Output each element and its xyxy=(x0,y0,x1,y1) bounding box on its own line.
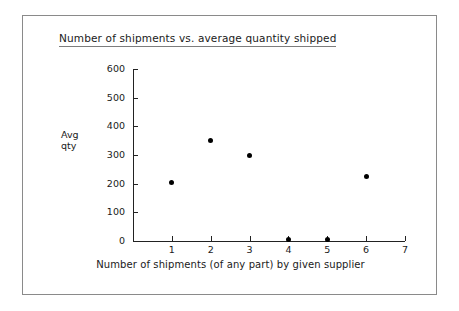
y-axis-label-line-2: qty xyxy=(61,140,121,151)
x-axis-tick xyxy=(250,236,251,241)
data-point xyxy=(286,237,291,242)
y-axis-tick-label: 500 xyxy=(85,92,125,103)
data-point xyxy=(325,237,330,242)
plot-area: 0100200300400500600 1234567 Avg qty Numb… xyxy=(23,16,438,296)
x-axis-label: Number of shipments (of any part) by giv… xyxy=(23,259,438,270)
y-axis-tick-label: 0 xyxy=(85,235,125,246)
y-axis-tick xyxy=(133,212,138,213)
x-axis-tick xyxy=(211,236,212,241)
data-point xyxy=(169,180,174,185)
y-axis-tick xyxy=(133,69,138,70)
x-axis-tick-label: 2 xyxy=(201,244,221,255)
x-axis-tick-label: 5 xyxy=(317,244,337,255)
data-point xyxy=(208,138,213,143)
x-axis-tick xyxy=(366,236,367,241)
y-axis-tick-label: 200 xyxy=(85,178,125,189)
data-point xyxy=(364,174,369,179)
y-axis-tick-label: 600 xyxy=(85,63,125,74)
x-axis-tick-label: 4 xyxy=(278,244,298,255)
y-axis-tick xyxy=(133,98,138,99)
y-axis-tick xyxy=(133,241,138,242)
y-axis-tick xyxy=(133,155,138,156)
figure-border: Number of shipments vs. average quantity… xyxy=(22,15,437,295)
x-axis-tick xyxy=(405,236,406,241)
x-axis-line xyxy=(133,241,405,242)
y-axis-tick-label: 100 xyxy=(85,206,125,217)
x-axis-tick-label: 3 xyxy=(240,244,260,255)
x-axis-tick-label: 7 xyxy=(395,244,415,255)
y-axis-label: Avg qty xyxy=(61,129,121,151)
y-axis-tick xyxy=(133,126,138,127)
y-axis-label-line-1: Avg xyxy=(61,129,121,140)
data-point xyxy=(247,153,252,158)
x-axis-tick-label: 1 xyxy=(162,244,182,255)
x-axis-tick xyxy=(172,236,173,241)
y-axis-tick xyxy=(133,184,138,185)
x-axis-tick-label: 6 xyxy=(356,244,376,255)
